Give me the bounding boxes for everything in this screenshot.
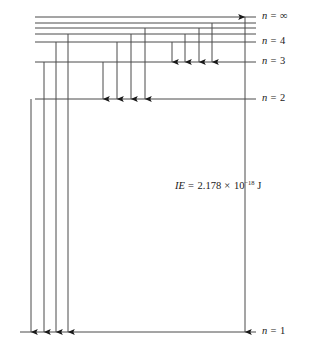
ie-symbol: IE bbox=[175, 180, 185, 191]
level-label-equals: = bbox=[267, 325, 280, 336]
ie-unit: J bbox=[255, 180, 262, 191]
level-label-value: ∞ bbox=[280, 10, 288, 21]
transition-arrows-group bbox=[31, 23, 212, 332]
ie-exponent: −18 bbox=[244, 179, 254, 186]
level-label-n-3: n = 3 bbox=[262, 56, 285, 67]
level-label-equals: = bbox=[267, 35, 280, 46]
ie-equals: = bbox=[185, 180, 198, 191]
ie-times: × bbox=[221, 180, 234, 191]
ie-base: 10 bbox=[234, 180, 245, 191]
ionization-energy-label: IE = 2.178 × 10−18 J bbox=[175, 181, 261, 192]
level-label-equals: = bbox=[267, 10, 280, 21]
diagram-canvas bbox=[0, 0, 311, 357]
level-label-n-4: n = 4 bbox=[262, 36, 285, 47]
level-label-n-infinity: n = ∞ bbox=[262, 11, 287, 22]
level-label-value: 1 bbox=[280, 325, 285, 336]
level-label-n-2: n = 2 bbox=[262, 93, 285, 104]
level-label-value: 3 bbox=[280, 55, 285, 66]
level-lines-group bbox=[20, 17, 256, 332]
ie-mantissa: 2.178 bbox=[198, 180, 222, 191]
level-label-value: 4 bbox=[280, 35, 285, 46]
level-label-value: 2 bbox=[280, 92, 285, 103]
level-label-equals: = bbox=[267, 92, 280, 103]
level-label-n-1: n = 1 bbox=[262, 326, 285, 337]
energy-level-diagram: n = ∞n = 4n = 3n = 2n = 1 IE = 2.178 × 1… bbox=[0, 0, 311, 357]
level-label-equals: = bbox=[267, 55, 280, 66]
